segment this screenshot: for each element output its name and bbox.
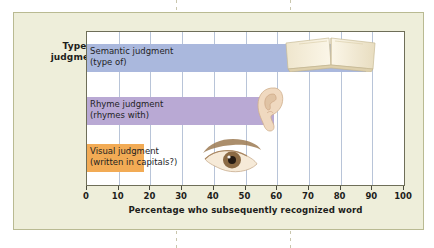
x-axis-title: Percentage who subsequently recognized w… <box>86 205 405 215</box>
tick-70 <box>308 186 309 190</box>
tick-80 <box>340 186 341 190</box>
tick-10 <box>118 186 119 190</box>
tick-40 <box>213 186 214 190</box>
open-book-icon <box>283 34 379 72</box>
tick-label-10: 10 <box>112 191 124 201</box>
bar-label-rhyme-judgment: Rhyme judgment (rhymes with) <box>90 99 163 120</box>
bar-label-line1: Visual judgment <box>90 146 177 157</box>
plot-area: Semantic judgment (type of) Rhyme judgme… <box>86 31 405 186</box>
tick-100 <box>403 186 404 190</box>
tick-0 <box>86 186 87 190</box>
bar-label-line1: Semantic judgment <box>90 46 173 57</box>
eye-icon <box>199 135 263 177</box>
tick-20 <box>149 186 150 190</box>
bar-label-line2: (type of) <box>90 57 173 68</box>
bar-label-line2: (rhymes with) <box>90 110 163 121</box>
tick-90 <box>371 186 372 190</box>
tick-label-40: 40 <box>207 191 219 201</box>
tick-label-90: 90 <box>365 191 377 201</box>
bar-label-line1: Rhyme judgment <box>90 99 163 110</box>
figure-screenshot: Type of judgment Semantic judgment (type… <box>0 0 434 248</box>
chart-panel: Type of judgment Semantic judgment (type… <box>13 12 424 230</box>
tick-label-60: 60 <box>270 191 282 201</box>
tick-50 <box>245 186 246 190</box>
tick-label-100: 100 <box>394 191 412 201</box>
tick-label-50: 50 <box>239 191 251 201</box>
bar-label-line2: (written in capitals?) <box>90 157 177 168</box>
bar-label-semantic-judgment: Semantic judgment (type of) <box>90 46 173 67</box>
x-axis-tick-labels: 0102030405060708090100 <box>86 191 405 205</box>
ear-icon <box>254 86 286 132</box>
bar-label-visual-judgment: Visual judgment (written in capitals?) <box>90 146 177 167</box>
tick-60 <box>276 186 277 190</box>
tick-label-0: 0 <box>83 191 89 201</box>
tick-label-20: 20 <box>143 191 155 201</box>
tick-label-80: 80 <box>334 191 346 201</box>
tick-30 <box>181 186 182 190</box>
tick-label-70: 70 <box>302 191 314 201</box>
tick-label-30: 30 <box>175 191 187 201</box>
bar-series: Semantic judgment (type of) Rhyme judgme… <box>87 32 404 185</box>
